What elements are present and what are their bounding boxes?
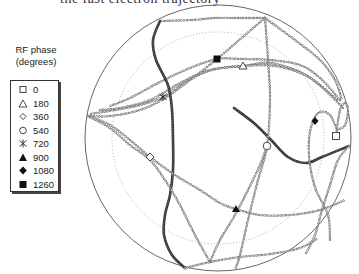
trajectory-segment-chain-hollow bbox=[88, 116, 210, 262]
trajectory-segment-bold bbox=[153, 21, 185, 268]
phase-marker-540-open-circle-icon bbox=[263, 142, 271, 150]
phase-marker-1260-filled-square-icon bbox=[214, 56, 221, 63]
trajectory-segment-chain bbox=[110, 58, 340, 106]
trajectory-segment-chain bbox=[210, 146, 267, 262]
trajectory-segment-chain bbox=[100, 63, 337, 110]
outer-boundary-circle bbox=[85, 5, 351, 271]
trajectory-segment-chain bbox=[88, 116, 210, 262]
trajectory-segment-chain-hollow bbox=[110, 58, 340, 106]
trajectory-segment-bold-texture bbox=[153, 21, 185, 268]
phase-marker-0-open-square-icon bbox=[333, 133, 340, 140]
trajectory-segment-chain bbox=[90, 65, 343, 114]
trajectory-plot bbox=[0, 0, 359, 274]
trajectory-segment-chain-hollow bbox=[88, 116, 345, 216]
trajectory-segment-chain-hollow bbox=[100, 63, 337, 110]
